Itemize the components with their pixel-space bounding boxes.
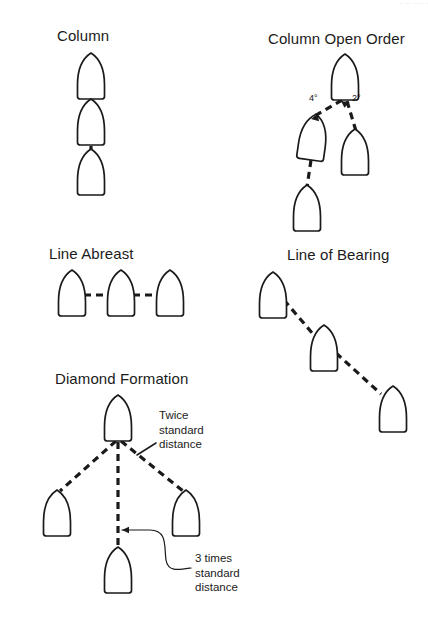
- ship-icon: [173, 490, 200, 536]
- figure-title-column-open-order: Column Open Order: [268, 30, 405, 47]
- formation-link: [284, 300, 313, 334]
- ship-icon: [311, 325, 338, 371]
- ship-icon: [44, 490, 71, 536]
- ship-icon: [78, 99, 105, 145]
- figure-line-abreast: [59, 270, 184, 316]
- ship-icon: [157, 270, 184, 316]
- ship-icon: [105, 395, 132, 441]
- formation-link: [347, 101, 356, 131]
- ship-icon: [260, 272, 287, 318]
- figure-title-column: Column: [57, 27, 109, 44]
- figure-title-line-of-bearing: Line of Bearing: [287, 246, 389, 263]
- annotation-three-times-standard-distance: 3 times standard distance: [195, 551, 240, 595]
- ship-icon: [78, 53, 105, 99]
- ship-icon: [342, 129, 369, 175]
- figure-line-of-bearing: [260, 272, 407, 432]
- figure-title-line-abreast: Line Abreast: [49, 245, 134, 262]
- formations-canvas: [0, 0, 428, 621]
- figure-column-open-order: [294, 54, 369, 231]
- formation-link: [336, 353, 381, 394]
- figure-column: [78, 53, 105, 195]
- formation-diagram-page: ·· ·· ····· · ColumnColumn Open Order4°2…: [0, 0, 428, 621]
- annotation-leader-line: [137, 443, 156, 455]
- angle-label: 2°: [352, 93, 361, 103]
- ship-icon: [296, 112, 329, 161]
- ship-icon: [78, 149, 105, 195]
- ship-icon: [380, 386, 407, 432]
- annotation-twice-standard-distance: Twice standard distance: [159, 408, 204, 452]
- formation-link: [307, 160, 311, 187]
- ship-icon: [105, 547, 132, 593]
- ship-icon: [108, 270, 135, 316]
- figure-title-diamond-formation: Diamond Formation: [55, 370, 188, 387]
- ship-icon: [294, 185, 321, 231]
- annotation-arrowhead: [122, 527, 129, 533]
- formation-link: [60, 441, 116, 491]
- angle-label: 4°: [309, 93, 318, 103]
- ship-icon: [59, 270, 86, 316]
